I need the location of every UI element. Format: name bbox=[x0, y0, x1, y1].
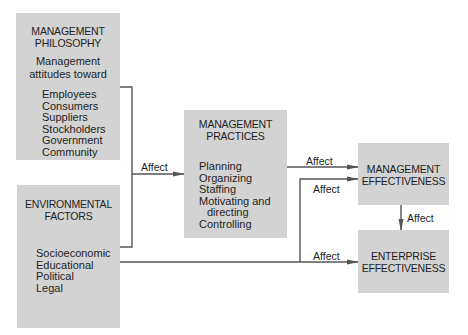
box-title: MANAGEMENT PRACTICES bbox=[184, 118, 287, 142]
box-title: ENTERPRISE EFFECTIVENESS bbox=[358, 250, 449, 274]
stakeholder-list: Employees Consumers Suppliers Stockholde… bbox=[16, 89, 120, 159]
bracket-connector bbox=[120, 87, 132, 247]
list-item: Planning bbox=[199, 161, 287, 173]
edge-label-to-practices: Affect bbox=[141, 161, 168, 173]
list-item: Employees bbox=[42, 89, 120, 101]
box-title: MANAGEMENT PHILOSOPHY bbox=[16, 25, 120, 49]
environmental-factors-box: ENVIRONMENTAL FACTORS Socioeconomic Educ… bbox=[17, 185, 120, 328]
box-subtitle: Management attitudes toward bbox=[16, 55, 120, 81]
list-item: Community bbox=[42, 147, 120, 159]
list-item: Controlling bbox=[199, 219, 287, 231]
box-title: MANAGEMENT EFFECTIVENESS bbox=[358, 163, 449, 187]
factor-list: Socioeconomic Educational Political Lega… bbox=[17, 248, 120, 294]
practice-list: Planning Organizing Staffing Motivating … bbox=[184, 161, 287, 231]
edge-label-mgmt-eff-to-enterprise: Affect bbox=[407, 212, 434, 224]
management-practices-box: MANAGEMENT PRACTICES Planning Organizing… bbox=[184, 110, 287, 238]
management-philosophy-box: MANAGEMENT PHILOSOPHY Management attitud… bbox=[16, 13, 120, 160]
edge-label-practices-to-mgmt-eff: Affect bbox=[306, 155, 333, 167]
list-item: Socioeconomic bbox=[36, 248, 120, 260]
management-effectiveness-box: MANAGEMENT EFFECTIVENESS bbox=[358, 143, 449, 205]
box-title: ENVIRONMENTAL FACTORS bbox=[17, 198, 120, 222]
edge-label-env-to-enterprise: Affect bbox=[313, 250, 340, 262]
list-item: Legal bbox=[36, 283, 120, 295]
edge-label-env-to-mgmt-eff: Affect bbox=[313, 183, 340, 195]
enterprise-effectiveness-box: ENTERPRISE EFFECTIVENESS bbox=[358, 230, 449, 293]
